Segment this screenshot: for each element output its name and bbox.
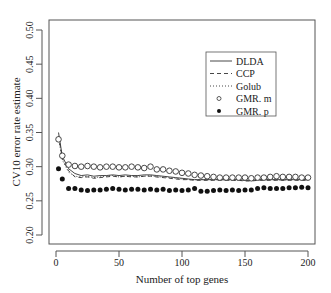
x-tick-label: 200 (301, 257, 316, 268)
gmr-p-point (230, 187, 235, 192)
gmr-m-point (72, 163, 78, 169)
gmr-m-point (305, 175, 311, 181)
y-tick-label: 0.35 (24, 124, 35, 142)
gmr-m-point (217, 175, 223, 181)
gmr-m-point (110, 164, 116, 170)
gmr-m-point (274, 173, 280, 179)
gmr-p-point (56, 166, 61, 171)
gmr-m-point (154, 167, 160, 173)
legend-label: DLDA (236, 56, 265, 67)
gmr-m-point (255, 175, 261, 181)
gmr-p-point (217, 187, 222, 192)
y-tick-label: 0.30 (24, 158, 35, 176)
gmr-m-point (135, 165, 141, 171)
gmr-p-point (255, 186, 260, 191)
gmr-p-point (98, 187, 103, 192)
legend: DLDACCPGolubGMR. mGMR. p (206, 52, 276, 117)
y-tick-label: 0.40 (24, 90, 35, 108)
y-axis: 0.200.250.300.350.400.450.50 (24, 21, 42, 244)
x-tick-label: 100 (175, 257, 190, 268)
gmr-p-point (167, 188, 172, 193)
data-series (56, 133, 311, 194)
legend-label: GMR. p (236, 106, 269, 117)
gmr-m-point (249, 175, 255, 181)
gmr-p-point (261, 185, 266, 190)
gmr-p-point (135, 187, 140, 192)
gmr-m-point (186, 171, 192, 177)
gmr-m-point (129, 164, 135, 170)
gmr-p-point (299, 185, 304, 190)
gmr-p-point (287, 185, 292, 190)
gmr-p-point (85, 188, 90, 193)
x-tick-label: 150 (238, 257, 253, 268)
gmr-m-point (230, 175, 236, 181)
gmr-p-point (154, 187, 159, 192)
chart: 0.200.250.300.350.400.450.50 05010015020… (0, 0, 331, 293)
gmr-p-point (205, 189, 210, 194)
gmr-m-point (173, 169, 179, 175)
gmr-m-point (85, 163, 91, 169)
gmr-m-point (299, 175, 305, 181)
gmr-m-point (192, 172, 198, 178)
gmr-m-point (236, 175, 242, 181)
gmr-p-point (129, 187, 134, 192)
y-tick-label: 0.20 (24, 226, 35, 244)
gmr-m-point (286, 174, 292, 180)
gmr-p-point (186, 187, 191, 192)
gmr-p-point (180, 188, 185, 193)
gmr-m-point (123, 165, 129, 171)
x-tick-label: 50 (114, 257, 124, 268)
gmr-p-point (306, 185, 311, 190)
legend-label: GMR. m (236, 93, 272, 104)
gmr-m-point (242, 175, 248, 181)
gmr-m-point (261, 175, 267, 181)
gmr-p-point (192, 186, 197, 191)
gmr-m-point (97, 165, 103, 171)
gmr-m-point (198, 173, 204, 179)
y-tick-label: 0.25 (24, 192, 35, 210)
gmr-p-point (91, 187, 96, 192)
gmr-m-point (148, 164, 154, 170)
gmr-p-point (104, 187, 109, 192)
gmr-p-point (79, 187, 84, 192)
gmr-p-point (198, 189, 203, 194)
gmr-m-point (66, 162, 72, 168)
legend-label: Golub (236, 81, 261, 92)
gmr-p-point (243, 187, 248, 192)
gmr-p-point (161, 187, 166, 192)
gmr-m-point (78, 164, 84, 170)
gmr-p-point (280, 186, 285, 191)
gmr-m-point (293, 174, 299, 180)
legend-label: CCP (236, 68, 255, 79)
gmr-p-point (236, 188, 241, 193)
gmr-m-point (56, 137, 62, 143)
x-tick-label: 0 (54, 257, 59, 268)
gmr-m-point (179, 170, 185, 176)
gmr-p-point (224, 188, 229, 193)
gmr-m-point (160, 167, 166, 173)
gmr-m-point (116, 165, 122, 171)
gmr-p-point (110, 186, 115, 191)
gmr-p-point (274, 186, 279, 191)
gmr-p-point (293, 185, 298, 190)
y-tick-label: 0.45 (24, 55, 35, 73)
gmr-m-point (223, 175, 229, 181)
gmr-p-point (117, 187, 122, 192)
gmr-m-point (104, 164, 110, 170)
gmr-p-point (123, 187, 128, 192)
y-tick-label: 0.50 (24, 21, 35, 39)
gmr-p-point (249, 187, 254, 192)
gmr-m-point (141, 165, 147, 171)
x-axis: 050100150200 (54, 251, 316, 268)
gmr-m-point (204, 173, 210, 179)
gmr-p-point (268, 186, 273, 191)
gmr-p-point (211, 188, 216, 193)
gmr-m-point (211, 174, 217, 180)
gmr-m-point (91, 164, 97, 170)
gmr-m-point (167, 168, 173, 174)
gmr-p-point (66, 186, 71, 191)
gmr-p-point (148, 187, 153, 192)
gmr-m-point (280, 174, 286, 180)
gmr-p-point (142, 187, 147, 192)
gmr-p-point (173, 187, 178, 192)
